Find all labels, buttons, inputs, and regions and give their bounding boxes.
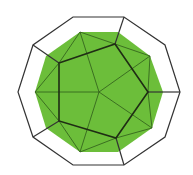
polyhedron-diagram xyxy=(0,0,193,175)
